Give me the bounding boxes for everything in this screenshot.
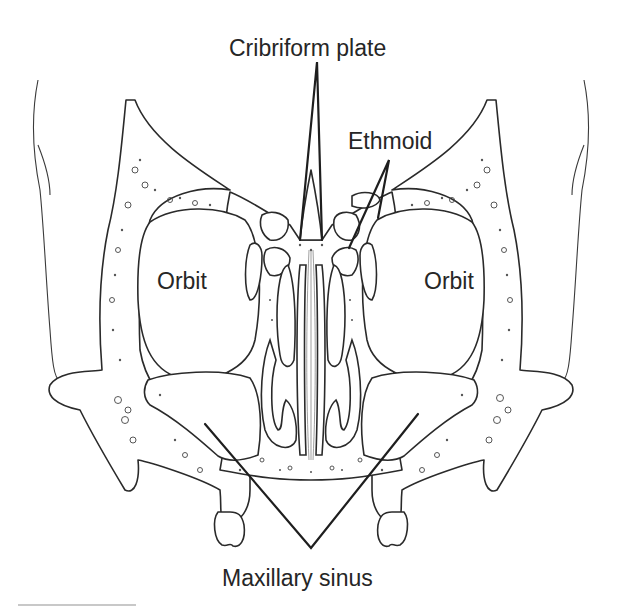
label-maxillary-sinus: Maxillary sinus — [222, 567, 373, 590]
right-orbit — [363, 209, 485, 380]
sinus-coronal-diagram — [0, 0, 622, 614]
label-orbit-right: Orbit — [424, 270, 474, 293]
label-cribriform-plate: Cribriform plate — [229, 37, 386, 60]
label-ethmoid: Ethmoid — [348, 130, 432, 153]
teeth — [215, 512, 408, 546]
scan-edge-rule — [18, 604, 136, 606]
left-orbit — [138, 209, 260, 380]
label-orbit-left: Orbit — [157, 270, 207, 293]
